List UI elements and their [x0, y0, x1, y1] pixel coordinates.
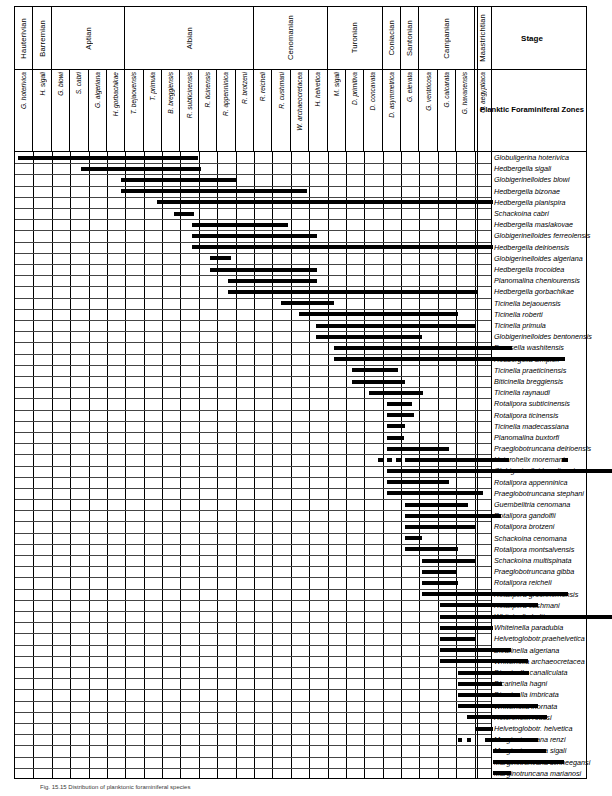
- grid-hline: [15, 589, 491, 590]
- range-bar: [228, 279, 317, 283]
- species-name: Praeglobotruncana gibba: [494, 568, 574, 575]
- zone-label: R. ticinensis: [204, 72, 211, 108]
- species-name: Planomalina cheniourensis: [494, 277, 580, 284]
- stage-cell-aptian: Aptian: [51, 6, 125, 70]
- zone-cell-8: B. breggiensis: [161, 70, 179, 152]
- stage-cell-turonian: Turonian: [327, 6, 382, 70]
- range-bar-dash: [387, 458, 392, 462]
- zone-label: R. appenninica: [222, 72, 229, 116]
- species-name: Globigerinelloides blowi: [494, 176, 570, 183]
- species-name: Rotalipora subticinensis: [494, 400, 570, 407]
- range-bar: [387, 491, 483, 495]
- zone-cell-21: G. elevata: [400, 70, 418, 152]
- range-bar-dash: [378, 458, 383, 462]
- species-name: Whiteinella archaeocretacea: [494, 658, 585, 665]
- grid-hline: [15, 354, 491, 355]
- range-bar: [422, 570, 457, 574]
- zone-label: G. calcarata: [443, 72, 450, 108]
- range-bar: [192, 223, 288, 227]
- grid-hline: [15, 544, 491, 545]
- species-name: Rotalipora ticinensis: [494, 412, 558, 419]
- species-name: Heterohelix moremani: [494, 456, 564, 463]
- figure-caption: Fig. 15.15 Distribution of planktonic fo…: [40, 784, 460, 790]
- range-bar: [281, 301, 334, 305]
- range-bar: [352, 368, 398, 372]
- species-name: Rotalipora montsalvensis: [494, 546, 574, 553]
- species-name: Favusella washitensis: [494, 344, 564, 351]
- grid-hline: [15, 723, 491, 724]
- grid-hline: [15, 768, 491, 769]
- species-name: Rotalipora greenhornensis: [494, 591, 578, 598]
- stage-label: Santonian: [405, 20, 414, 56]
- grid-hline: [15, 208, 491, 209]
- zone-label: G. algeriana: [94, 72, 101, 108]
- grid-hline: [15, 555, 491, 556]
- grid-hline: [15, 298, 491, 299]
- grid-hline: [15, 645, 491, 646]
- species-name: Globigerinelloides ultramicra: [494, 467, 585, 474]
- species-name: Globuligerina hoterivica: [494, 154, 569, 161]
- species-name: Globigerinelloides ferreolensis: [494, 232, 590, 239]
- zone-cell-0: G. hoterivica: [14, 70, 32, 152]
- range-bar: [210, 256, 231, 260]
- zone-cell-20: D. asymmetrica: [382, 70, 400, 152]
- grid-hline: [15, 387, 491, 388]
- grid-hline: [15, 443, 491, 444]
- zone-cell-4: G. algeriana: [88, 70, 106, 152]
- zone-cell-14: R. cushmani: [271, 70, 289, 152]
- species-name: Ticinella madecassiana: [494, 423, 569, 430]
- zone-cell-1: H. sigali: [32, 70, 50, 152]
- zone-cell-5: H. gorbachikae: [106, 70, 124, 152]
- species-name: Globigerinelloides algeriana: [494, 255, 583, 262]
- range-bar: [121, 189, 307, 193]
- zone-cell-3: S. cabri: [69, 70, 87, 152]
- stage-cell-albian: Albian: [124, 6, 253, 70]
- species-name: Ticinella raynaudi: [494, 389, 550, 396]
- grid-hline: [15, 174, 491, 175]
- range-bar: [369, 391, 423, 395]
- species-name: Globigerinelloides bentonensis: [494, 333, 592, 340]
- species-name: Dicarinella canaliculata: [494, 669, 568, 676]
- grid-hline: [15, 466, 491, 467]
- range-bar: [387, 402, 412, 406]
- range-chart: HauterivianBarremianAptianAlbianCenomani…: [0, 0, 612, 796]
- zone-cell-11: R. appenninica: [216, 70, 234, 152]
- zone-cell-12: R. brotzeni: [235, 70, 253, 152]
- species-name: Marginotruncana renzi: [494, 736, 566, 743]
- grid-hline: [15, 376, 491, 377]
- zone-label: H. gorbachikae: [112, 72, 119, 116]
- stage-label: Turonian: [350, 22, 359, 53]
- grid-hline: [15, 242, 491, 243]
- zone-cell-22: G. ventricosa: [418, 70, 436, 152]
- stage-label: Barremian: [38, 20, 47, 57]
- range-bar: [422, 559, 475, 563]
- range-bar: [422, 581, 458, 585]
- zone-title-cell: Planktic Foraminiferal Zones: [477, 70, 587, 152]
- zone-cell-10: R. ticinensis: [198, 70, 216, 152]
- stage-title-label: Stage: [521, 34, 543, 43]
- range-bar: [18, 156, 198, 160]
- grid-hline: [15, 678, 491, 679]
- grid-hline: [15, 163, 491, 164]
- range-bar: [210, 268, 317, 272]
- range-bar-dash: [467, 738, 471, 742]
- grid-hline: [15, 600, 491, 601]
- species-name: Guembelitria cenomana: [494, 501, 570, 508]
- grid-hline: [15, 275, 491, 276]
- zone-label: B. breggiensis: [167, 72, 174, 114]
- zone-cell-9: R. subticinensis: [179, 70, 197, 152]
- species-name: Marginotruncana schneegansi: [494, 759, 590, 766]
- species-name: Marginotruncana sigali: [494, 747, 566, 754]
- range-bar-dash: [458, 738, 462, 742]
- zone-label: G. hoterivica: [20, 72, 27, 109]
- species-name: Marginotruncana marianosi: [494, 770, 581, 777]
- grid-hline: [15, 398, 491, 399]
- range-bar: [405, 547, 458, 551]
- species-name: Praeglobotruncana stephani: [494, 490, 584, 497]
- species-name: Hedbergella planispira: [494, 199, 566, 206]
- species-name: Hedbergella delrioensis: [494, 244, 569, 251]
- stage-cell-coniacian: Coniacian: [382, 6, 400, 70]
- grid-hline: [15, 197, 491, 198]
- range-bar: [192, 234, 317, 238]
- species-name-list: Globuligerina hoterivicaHedbergella siga…: [494, 152, 612, 779]
